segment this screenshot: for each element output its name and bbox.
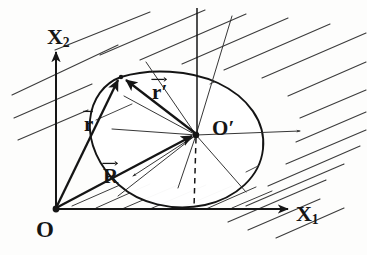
vector-label-r: r (84, 108, 94, 135)
origin-label-O: O (36, 218, 54, 241)
axis-label-x2-subscript: 2 (62, 35, 69, 50)
physics-diagram-figure: X2 X1 O O′ r r′ (0, 0, 367, 255)
vector-label-R-glyph: R (103, 166, 118, 187)
axis-label-x1-subscript: 1 (311, 212, 318, 227)
axis-label-x1: X1 (296, 203, 318, 227)
origin-point-O (53, 206, 60, 213)
vector-label-r-prime-glyph: r (152, 82, 161, 103)
vector-label-r-glyph: r (84, 114, 93, 135)
origin-label-O-letter: O (36, 217, 54, 242)
body-origin-label-letter: O (212, 116, 228, 140)
axis-label-x2: X2 (47, 26, 69, 50)
axis-label-x2-letter: X (47, 24, 62, 49)
vector-label-r-prime-mark: ′ (161, 80, 167, 104)
material-point-P (119, 75, 123, 79)
axis-label-x1-letter: X (296, 201, 311, 226)
body-origin-point-O-prime (193, 132, 199, 138)
body-origin-label-prime: ′ (228, 116, 234, 140)
body-origin-label-O-prime: O′ (212, 118, 234, 139)
vector-label-R: R (103, 160, 118, 187)
vector-label-r-prime: r′ (152, 76, 167, 103)
